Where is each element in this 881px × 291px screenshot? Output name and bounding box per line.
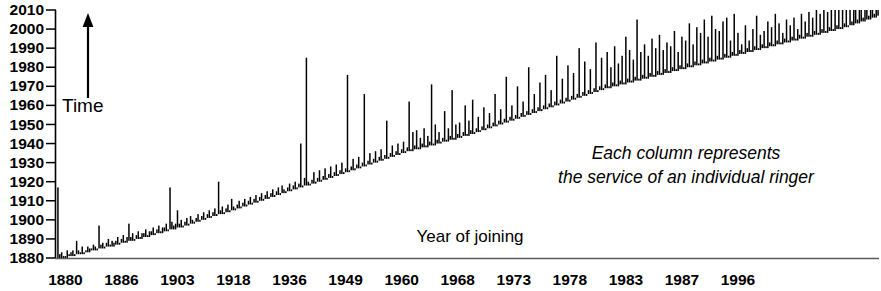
ringer-service-bar (287, 187, 288, 191)
y-axis-tick-label: 2010 (10, 1, 44, 18)
ringer-service-bar (438, 132, 439, 143)
ringer-service-bar (659, 35, 660, 75)
ringer-service-bar (83, 252, 84, 254)
ringer-service-bar (547, 107, 548, 109)
ringer-service-bar (395, 151, 396, 155)
ringer-service-bar (123, 235, 124, 243)
ringer-service-bar (231, 199, 232, 210)
ringer-service-bar (737, 33, 738, 56)
ringer-service-bar (685, 41, 686, 70)
ringer-service-bar (679, 65, 680, 69)
ringer-service-bar (446, 140, 447, 142)
ringer-service-bar (668, 71, 669, 73)
ringer-service-bar (212, 212, 213, 216)
ringer-service-bar (580, 96, 581, 98)
ringer-service-bar (179, 224, 180, 228)
ringer-service-bar (575, 98, 576, 100)
ringer-service-bar (793, 18, 794, 41)
ringer-service-bar (560, 100, 561, 104)
ringer-service-bar (421, 144, 422, 148)
ringer-service-bar (696, 27, 697, 65)
ringer-service-bar (332, 176, 333, 178)
ringer-service-bar (476, 128, 477, 132)
ringer-service-bar (162, 227, 163, 233)
ringer-service-bar (227, 205, 228, 213)
time-arrow-icon (83, 13, 94, 98)
y-axis-tick-label: 1920 (10, 173, 44, 190)
ringer-service-bar (461, 136, 462, 138)
ringer-service-bar (152, 227, 153, 235)
ringer-service-bar (874, 14, 875, 18)
ringer-service-bar (197, 214, 198, 222)
annotation-line-1: Each column represents (592, 143, 781, 163)
ringer-service-bar (653, 75, 654, 77)
ringer-service-bar (849, 10, 850, 25)
ringer-service-chart: 1880189019001910192019301940195019601970… (0, 0, 881, 291)
ringer-service-bar (280, 193, 281, 195)
ringer-service-bar (543, 105, 544, 109)
ringer-service-bar (625, 37, 626, 85)
ringer-service-bar (304, 178, 305, 186)
ringer-service-bar (194, 222, 195, 224)
ringer-service-bar (502, 123, 503, 125)
ringer-service-bar (380, 149, 381, 160)
ringer-service-bar (180, 220, 181, 228)
ringer-service-bar (302, 186, 303, 188)
ringer-service-bar (846, 10, 847, 27)
ringer-service-bar (354, 168, 355, 170)
ringer-service-bar (748, 41, 749, 52)
ringer-service-bar (352, 159, 353, 170)
ringer-service-bar (651, 39, 652, 77)
ringer-service-bar (367, 161, 368, 165)
x-axis-tick-label: 1973 (497, 271, 532, 288)
ringer-service-bar (110, 245, 111, 247)
ringer-service-bar (790, 25, 791, 42)
ringer-service-bar (786, 20, 787, 43)
ringer-service-bar (210, 216, 211, 218)
ringer-service-bar (244, 199, 245, 207)
ringer-service-bar (629, 50, 630, 82)
ringer-service-bar (735, 54, 736, 56)
ringer-service-bar (524, 115, 525, 117)
ringer-service-bar (814, 31, 815, 35)
ringer-service-bar (128, 224, 129, 241)
ringer-service-bar (582, 92, 583, 96)
ringer-service-bar (687, 63, 688, 67)
ringer-service-bar (534, 94, 535, 113)
ringer-service-bar (248, 201, 249, 205)
ringer-service-bar (726, 18, 727, 58)
ringer-service-bar (61, 252, 62, 258)
ringer-service-bar (294, 182, 295, 190)
ringer-service-bar (513, 119, 514, 121)
ringer-service-bar (739, 50, 740, 54)
ringer-service-bar (63, 256, 64, 258)
ringer-service-bar (468, 121, 469, 136)
ringer-service-bar (591, 92, 592, 94)
ringer-service-bar (190, 216, 191, 224)
ringer-service-bar (558, 103, 559, 105)
ringer-service-bar (610, 67, 611, 88)
ringer-service-bar (100, 245, 101, 249)
ringer-service-bar (222, 206, 223, 214)
ringer-service-bar (139, 237, 140, 239)
ringer-service-bar (80, 252, 81, 254)
ringer-service-bar (500, 109, 501, 124)
ringer-service-bar (829, 27, 830, 31)
ringer-service-bar (225, 208, 226, 212)
ringer-service-bar (704, 20, 705, 64)
ringer-service-bar (326, 178, 327, 180)
ringer-service-bar (350, 166, 351, 170)
ringer-service-bar (365, 165, 366, 167)
ringer-service-bar (416, 130, 417, 149)
ringer-service-bar (132, 233, 133, 241)
ringer-service-bar (336, 165, 337, 176)
ringer-service-bar (319, 170, 320, 181)
ringer-service-bar (537, 107, 538, 111)
ringer-service-bar (552, 105, 553, 107)
ringer-service-bar (872, 10, 873, 18)
ringer-service-bar (642, 75, 643, 79)
ringer-service-bar (205, 218, 206, 220)
ringer-service-bar (186, 218, 187, 226)
ringer-service-bar (95, 247, 96, 251)
y-axis-tick-label: 1970 (10, 77, 44, 94)
